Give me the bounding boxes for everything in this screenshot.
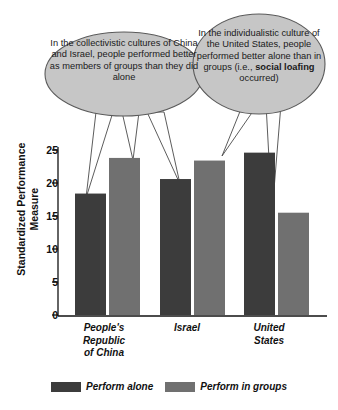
bar-united-states-perform-alone — [244, 153, 275, 315]
legend-label-perform-alone: Perform alone — [86, 381, 153, 392]
tail-china-alone — [86, 112, 113, 198]
bar-israel-perform-in-groups — [194, 161, 225, 315]
legend-item-perform-in-groups: Perform in groups — [165, 381, 287, 392]
legend-swatch-perform-in-groups — [165, 382, 195, 392]
bar-israel-perform-alone — [160, 179, 191, 315]
individualistic-callout-bubble — [193, 14, 325, 114]
y-axis-title-text: Standardized Performance Measure — [15, 143, 40, 276]
bar-united-states-perform-in-groups — [278, 213, 309, 315]
chart-legend: Perform alone Perform in groups — [0, 381, 338, 392]
legend-item-perform-alone: Perform alone — [51, 381, 153, 392]
x-axis-label-china: People'sRepublicof China — [62, 322, 146, 360]
x-axis-label-line: States — [232, 335, 306, 348]
x-axis-label-line: United — [232, 322, 306, 335]
tail-china-groups — [122, 112, 139, 160]
x-axis-label-israel: Israel — [150, 322, 224, 335]
bar-people-s-republic-of-china-perform-alone — [75, 194, 106, 315]
x-axis-label-line: Republic — [62, 335, 146, 348]
y-tick-label-0: 0 — [36, 309, 58, 321]
bars-group — [75, 153, 309, 315]
figure-container: In the collectivistic cultures of China … — [0, 0, 338, 410]
x-axis-label-united-states: UnitedStates — [232, 322, 306, 347]
y-axis-title: Standardized Performance Measure — [15, 129, 41, 289]
tail-israel-alone — [147, 112, 180, 184]
bar-people-s-republic-of-china-perform-in-groups — [109, 158, 140, 315]
legend-swatch-perform-alone — [51, 382, 81, 392]
x-axis-label-line: People's — [62, 322, 146, 335]
x-axis-label-line: Israel — [150, 322, 224, 335]
legend-label-perform-in-groups: Perform in groups — [200, 381, 287, 392]
x-axis-label-line: of China — [62, 347, 146, 360]
collectivistic-callout-bubble — [45, 32, 203, 116]
